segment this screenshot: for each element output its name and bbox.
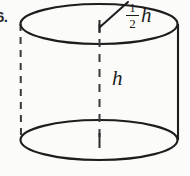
radius-leader-line: [100, 2, 128, 27]
cylinder-left-wall-dashed: [21, 24, 22, 140]
cylinder-drawing: [0, 0, 190, 176]
cylinder-figure: 6. 1 2 h h: [0, 0, 190, 176]
